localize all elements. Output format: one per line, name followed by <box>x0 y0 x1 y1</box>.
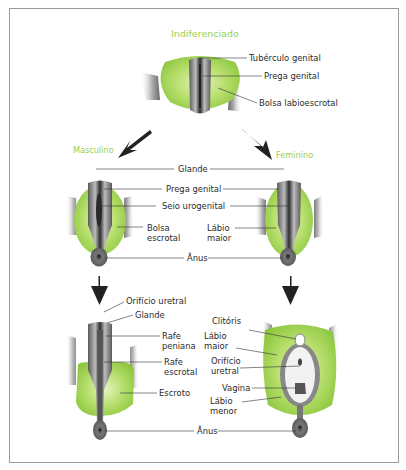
label-rafe-peniana-2: peniana <box>162 341 196 351</box>
title-feminino: Feminino <box>276 150 313 160</box>
label-vagina: Vagina <box>222 383 250 393</box>
label-clitoris: Clitóris <box>212 316 241 326</box>
bottom-female-illustration <box>262 320 338 438</box>
label-labio-maior-bottom-2: maior <box>204 341 228 351</box>
label-orificio-uretral-male: Orifício uretral <box>126 296 186 306</box>
label-seio-urogenital: Seio urogenital <box>162 201 225 211</box>
label-orificio-uretral-female-1: Orifício <box>211 356 241 366</box>
label-rafe-escrotal-1: Rafe <box>164 357 183 367</box>
middle-female-illustration <box>255 181 324 267</box>
title-masculino: Masculino <box>73 145 114 155</box>
label-labio-maior-mid-2: maior <box>207 233 231 243</box>
label-escroto: Escroto <box>159 388 190 398</box>
label-labio-menor-2: menor <box>210 406 237 416</box>
label-bolsa-labioescrotal: Bolsa labioescrotal <box>259 98 338 108</box>
bottom-male-illustration <box>66 322 139 440</box>
label-bolsa-escrotal-2: escrotal <box>147 233 180 243</box>
indifferent-illustration <box>140 56 242 114</box>
arrow-icons <box>118 128 272 160</box>
label-orificio-uretral-female-2: uretral <box>211 366 239 376</box>
title-indiferenciado: Indiferenciado <box>171 28 239 39</box>
label-rafe-escrotal-2: escrotal <box>164 367 197 377</box>
label-labio-maior-bottom-1: Lábio <box>204 331 227 341</box>
label-prega-genital-mid: Prega genital <box>166 184 221 194</box>
label-tuberculo-genital: Tubérculo genital <box>249 53 321 63</box>
label-anus-bottom: Ânus <box>197 426 218 436</box>
label-glande-bottom: Glande <box>135 310 165 320</box>
arrow-down-icons <box>91 276 299 305</box>
middle-male-illustration <box>66 181 134 267</box>
diagram-artwork <box>0 0 406 470</box>
label-labio-maior-mid-1: Lábio <box>207 223 230 233</box>
label-glande-mid: Glande <box>178 164 208 174</box>
label-rafe-peniana-1: Rafe <box>162 331 181 341</box>
label-labio-menor-1: Lábio <box>210 396 233 406</box>
label-bolsa-escrotal-1: Bolsa <box>147 223 170 233</box>
label-prega-genital-top: Prega genital <box>264 71 319 81</box>
label-anus-mid: Ânus <box>187 253 208 263</box>
